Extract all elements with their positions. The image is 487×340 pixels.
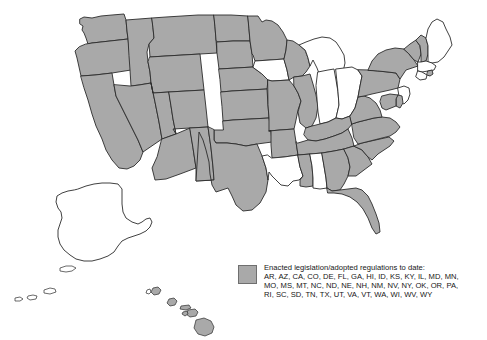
legend-text-block: Enacted legislation/adopted regulations … bbox=[264, 263, 485, 299]
state-MD bbox=[380, 94, 398, 110]
alaska-aleutian-2 bbox=[44, 288, 56, 294]
alaska-aleutian-3 bbox=[27, 295, 37, 300]
state-AK bbox=[56, 183, 152, 261]
legend-states-line-1: AR, AZ, CA, CO, DE, FL, GA, HI, ID, KS, … bbox=[264, 272, 485, 281]
state-HI-hawaii bbox=[194, 318, 214, 336]
state-WY bbox=[148, 54, 204, 93]
legend-title: Enacted legislation/adopted regulations … bbox=[264, 263, 485, 272]
state-ME bbox=[426, 19, 452, 63]
state-CT bbox=[416, 71, 427, 80]
state-AR bbox=[269, 129, 298, 158]
state-OK bbox=[214, 118, 272, 146]
legend-states-line-3: RI, SC, SD, TN, TX, UT, VA, VT, WA, WI, … bbox=[264, 290, 485, 299]
state-HI-oahu bbox=[167, 298, 177, 306]
alaska-aleutian-4 bbox=[15, 297, 23, 301]
state-HI-kauai bbox=[151, 287, 161, 295]
state-RI bbox=[427, 70, 433, 76]
state-PA bbox=[358, 70, 400, 97]
state-ND bbox=[214, 15, 250, 42]
alaska-aleutian-1 bbox=[60, 266, 76, 272]
state-FL bbox=[327, 188, 380, 234]
state-HI-molokai bbox=[180, 305, 191, 310]
state-OR bbox=[75, 39, 131, 76]
legend-states-line-2: MO, MS, MT, NC, ND, NE, NH, NM, NV, NY, … bbox=[264, 281, 485, 290]
map-page: Enacted legislation/adopted regulations … bbox=[0, 0, 487, 340]
state-IN bbox=[316, 69, 339, 124]
map-legend: Enacted legislation/adopted regulations … bbox=[238, 263, 485, 299]
state-KS bbox=[221, 89, 269, 121]
state-SD bbox=[217, 41, 253, 69]
state-MN bbox=[248, 16, 287, 61]
state-HI-niihau bbox=[146, 289, 151, 294]
legend-swatch-enacted bbox=[238, 265, 257, 284]
state-MT bbox=[149, 15, 217, 57]
